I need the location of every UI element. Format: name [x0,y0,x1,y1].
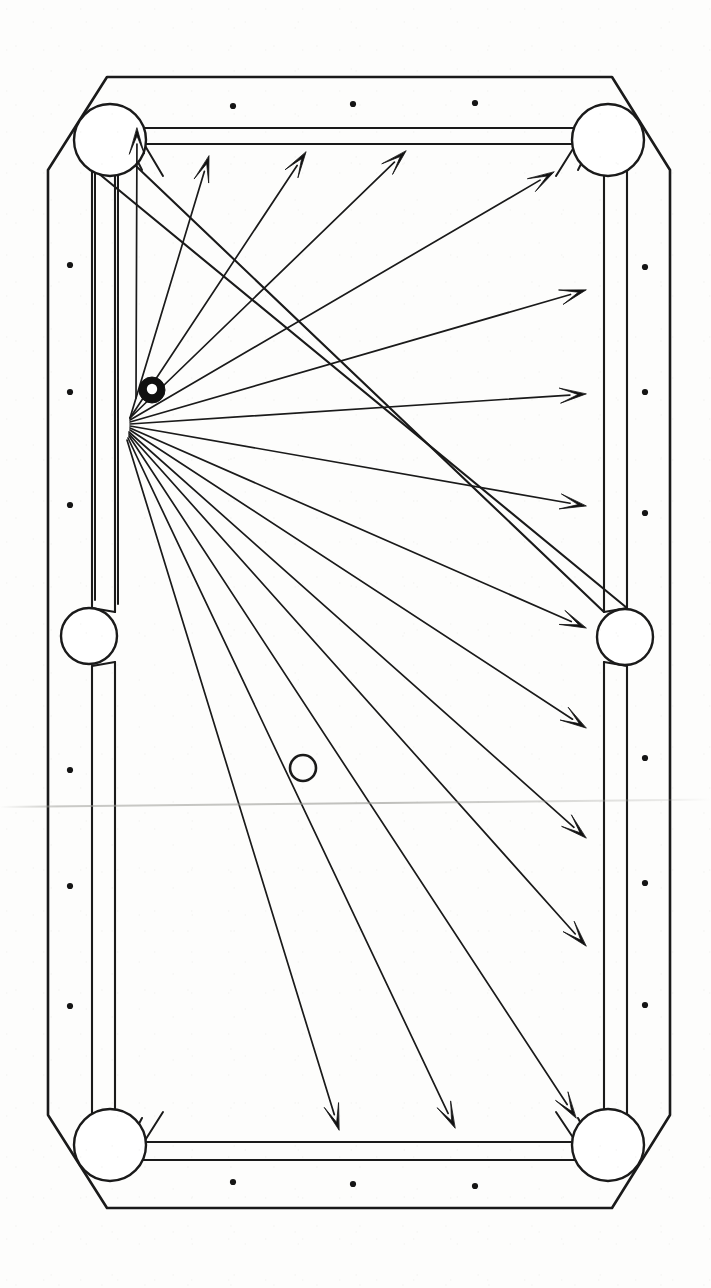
sight-diamond-16 [642,755,648,761]
sight-diamond-2 [350,101,356,107]
aim-arrow-13-to-bottom-right-corner-pocket [129,436,576,1118]
table-outer-edge [48,77,670,1208]
sight-diamond-15 [642,510,648,516]
aim-line-shaft-7 [130,395,570,424]
sight-diamond-11 [67,883,73,889]
sight-diamond-5 [350,1181,356,1187]
pool-table-diagram [0,0,711,1288]
aim-line-shaft-10 [130,430,573,719]
sight-diamond-9 [67,502,73,508]
aim-arrow-14-to-bottom-rail-right [128,438,455,1128]
sight-diamond-14 [642,389,648,395]
balls-group [139,377,316,781]
rail-sight-diamonds [67,100,648,1189]
aim-arrowhead-5 [528,172,554,192]
aim-line-shaft-11 [129,432,574,827]
sight-diamond-18 [642,1002,648,1008]
aim-arrow-12-to-right-rail-low [129,434,586,946]
sight-diamond-12 [67,1003,73,1009]
sight-diamond-7 [67,262,73,268]
sight-diamond-1 [230,103,236,109]
aim-line-shaft-1 [136,144,137,398]
bottom-left-corner-pocket [74,1109,146,1181]
rail-inner-edge [92,128,627,1160]
aim-arrow-15-to-bottom-rail-mid [127,440,339,1130]
aim-line-shaft-15 [127,440,334,1115]
cue-ball-highlight [147,384,157,394]
table-frame [48,77,670,1208]
aim-line-arrows [127,128,586,1130]
aim-line-shaft-14 [128,438,448,1113]
sight-diamond-6 [472,1183,478,1189]
aim-line-shaft-6 [130,294,571,422]
bottom-right-corner-pocket [572,1109,644,1181]
aim-arrow-9-to-right-side-pocket [130,428,586,628]
aim-line-shaft-13 [129,436,567,1105]
aim-arrow-8-to-right-rail-lower-upper [130,426,586,509]
right-side-pocket [597,609,653,665]
aim-arrow-4-to-top-rail-mid-right [130,151,406,418]
aim-arrow-7-to-right-rail-level [130,388,586,424]
sight-diamond-10 [67,767,73,773]
sight-diamond-8 [67,389,73,395]
aim-line-shaft-4 [130,162,394,418]
aim-arrowhead-3 [285,152,306,178]
aim-arrowhead-10 [560,707,586,728]
table-drawing-canvas [0,0,711,1288]
object-ball [290,755,316,781]
aim-arrowhead-14 [437,1101,455,1128]
sight-diamond-13 [642,264,648,270]
aim-arrow-11-to-right-rail-lower [129,432,586,838]
sight-diamond-3 [472,100,478,106]
cushion-nose-line [115,144,604,1142]
sight-diamond-17 [642,880,648,886]
top-right-corner-pocket [572,104,644,176]
aim-line-shaft-12 [129,434,575,934]
aim-arrowhead-9 [559,611,586,628]
aim-arrow-6-to-right-rail-upper [130,290,586,422]
sight-diamond-4 [230,1179,236,1185]
aim-line-shaft-9 [130,428,571,622]
aim-arrow-10-to-right-rail-below-side [130,430,586,728]
left-side-pocket [61,608,117,664]
pockets-group [61,104,653,1181]
